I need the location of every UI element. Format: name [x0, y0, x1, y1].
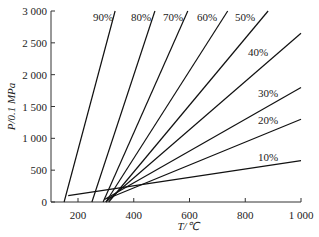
series-label: 30% — [258, 87, 278, 99]
series-line-90pct — [64, 11, 115, 202]
y-tick-label: 2 000 — [22, 69, 47, 81]
series-line-60pct — [106, 11, 228, 202]
chart: 05001 0001 5002 0002 5003 00020040060080… — [0, 0, 319, 237]
series-label: 60% — [197, 11, 217, 23]
x-tick-label: 200 — [70, 209, 87, 221]
series-label: 70% — [163, 11, 183, 23]
y-tick-label: 0 — [42, 196, 48, 208]
series-line-30pct — [105, 87, 302, 199]
series-label: 10% — [258, 151, 278, 163]
series-line-50pct — [109, 11, 268, 202]
series-label: 50% — [235, 11, 255, 23]
series-label: 20% — [258, 114, 278, 126]
series-label: 80% — [131, 11, 151, 23]
y-tick-label: 2 500 — [22, 37, 47, 49]
series-label: 90% — [93, 11, 113, 23]
y-tick-label: 1 000 — [22, 132, 47, 144]
y-tick-label: 3 000 — [22, 5, 47, 17]
series-label: 40% — [248, 46, 268, 58]
y-tick-label: 500 — [31, 164, 48, 176]
y-tick-label: 1 500 — [22, 101, 47, 113]
x-tick-label: 1 000 — [289, 209, 314, 221]
y-axis-label: P/0.1 MPa — [5, 82, 17, 131]
x-axis-label: T/℃ — [177, 220, 200, 232]
series-line-10pct — [68, 161, 301, 196]
x-tick-label: 400 — [126, 209, 143, 221]
x-tick-label: 800 — [237, 209, 254, 221]
